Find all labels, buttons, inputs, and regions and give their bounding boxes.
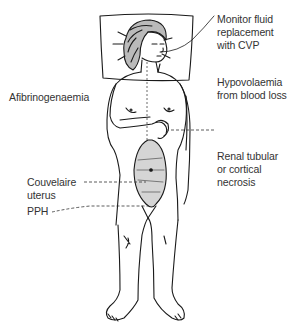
label-hypovolaemia: Hypovolaemia from blood loss [217, 76, 287, 102]
label-monitor-fluid: Monitor fluid replacement with CVP [217, 13, 274, 52]
right-arm [180, 84, 190, 204]
label-line: PPH [27, 205, 48, 218]
label-line: from blood loss [217, 89, 287, 102]
label-renal-necrosis: Renal tubular or cortical necrosis [217, 150, 278, 189]
label-pph: PPH [27, 205, 48, 218]
cvp-line [160, 16, 214, 52]
left-leg [106, 218, 148, 320]
torso-left [107, 72, 141, 225]
label-line: necrosis [217, 176, 278, 189]
label-afibrinogenaemia: Afibrinogenaemia [9, 91, 89, 104]
label-line: Couvelaire [27, 176, 76, 189]
leader-pph [52, 206, 148, 212]
right-leg [148, 218, 184, 320]
left-arm [110, 84, 167, 139]
label-line: Hypovolaemia [217, 76, 287, 89]
uterus [134, 140, 166, 207]
label-line: uterus [27, 189, 76, 202]
face [142, 32, 167, 62]
label-line: Afibrinogenaemia [9, 91, 89, 104]
label-line: or cortical [217, 163, 278, 176]
torso-right [158, 72, 186, 220]
label-line: Renal tubular [217, 150, 278, 163]
label-line: replacement [217, 26, 274, 39]
label-line: with CVP [217, 39, 274, 52]
label-line: Monitor fluid [217, 13, 274, 26]
label-couvelaire-uterus: Couvelaire uterus [27, 176, 76, 202]
